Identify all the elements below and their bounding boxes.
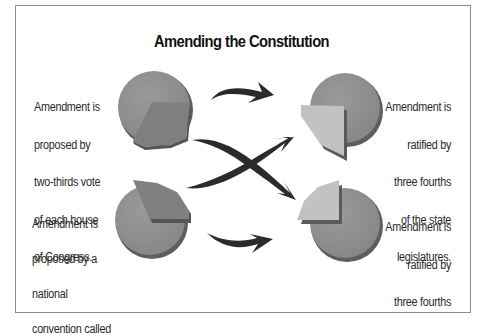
pie-icon-state-conventions: [297, 180, 383, 262]
pie-icon-state-legislatures: [301, 73, 383, 161]
pie-icon-national-convention: [115, 180, 191, 259]
arrow-icon-convention-to-conventions: [207, 233, 273, 253]
arrow-icon-congress-to-legislatures: [211, 82, 274, 103]
arrow-icon-convention-to-legislatures: [186, 137, 294, 188]
pie-icon-congress-vote: [118, 71, 193, 150]
